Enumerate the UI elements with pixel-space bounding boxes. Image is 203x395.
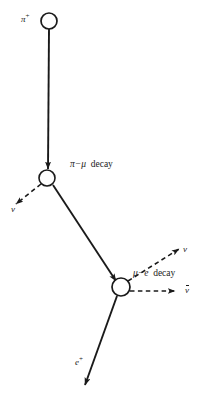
muon-track xyxy=(53,185,116,281)
pion-track xyxy=(48,29,49,169)
label-pi-mu-decay-word: decay xyxy=(91,159,113,169)
neutrino-track-from-pion xyxy=(16,184,41,204)
pion-origin-vertex xyxy=(41,13,57,29)
label-antineutrino-symbol: ν xyxy=(185,286,189,295)
label-pi-plus: π+ xyxy=(21,13,29,24)
pi-mu-decay-vertex xyxy=(39,170,55,186)
label-mu-e-decay-symbols: μ−e xyxy=(133,268,148,278)
label-mu-e-decay: μ−e decay xyxy=(133,269,175,279)
label-positron: e+ xyxy=(75,356,83,367)
label-neutrino-from-pion: ν xyxy=(11,205,15,214)
label-positron-charge: + xyxy=(79,355,83,363)
decay-diagram: π+ ν π−μ decay ν μ−e decay ν e+ xyxy=(0,0,203,395)
label-pi-plus-charge: + xyxy=(26,12,30,20)
mu-e-decay-vertex xyxy=(112,278,130,296)
decay-diagram-canvas xyxy=(0,0,203,395)
label-mu-e-decay-word: decay xyxy=(153,268,175,278)
label-pi-mu-decay-symbols: π−μ xyxy=(70,159,86,169)
label-neutrino-from-muon: ν xyxy=(183,245,187,254)
positron-track xyxy=(85,296,117,385)
label-antineutrino: ν xyxy=(185,286,189,295)
label-pi-mu-decay: π−μ decay xyxy=(70,160,113,170)
